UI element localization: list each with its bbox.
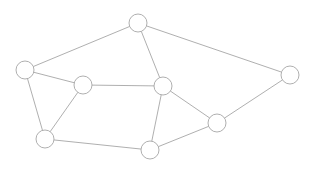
graph-node[interactable] (208, 114, 226, 132)
graph-edge (152, 95, 161, 141)
graph-node[interactable] (281, 66, 299, 84)
graph-edge (33, 26, 129, 66)
graph-node[interactable] (154, 77, 172, 95)
graph-edge (170, 91, 209, 118)
graph-edge (54, 140, 141, 149)
graph-node[interactable] (141, 141, 159, 159)
graph-diagram-canvas (0, 0, 313, 174)
graph-edge (92, 85, 154, 86)
graph-node[interactable] (36, 130, 54, 148)
graph-edge (141, 31, 159, 77)
graph-edge (34, 72, 75, 83)
node-layer (16, 14, 299, 159)
graph-edge (28, 79, 43, 131)
graph-node[interactable] (16, 61, 34, 79)
graph-edge (158, 126, 208, 146)
graph-edge (225, 80, 283, 118)
graph-edge (50, 92, 78, 131)
graph-node[interactable] (129, 14, 147, 32)
graph-node[interactable] (74, 76, 92, 94)
graph-edge (147, 26, 282, 72)
graph-svg (0, 0, 313, 174)
